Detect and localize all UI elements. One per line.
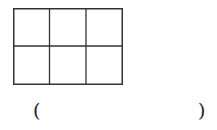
rectangle-grid-2x3 <box>13 8 122 84</box>
answer-close-paren: ) <box>198 100 205 120</box>
answer-open-paren: ( <box>33 100 40 120</box>
